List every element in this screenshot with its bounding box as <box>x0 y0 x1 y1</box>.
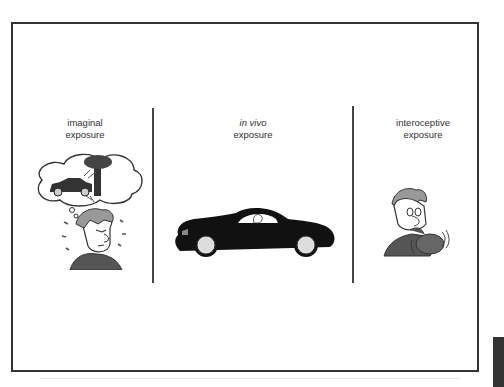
panel-title-in-vivo: in vivo exposure <box>213 117 293 141</box>
panel-title-line1: in vivo <box>213 117 293 129</box>
panel-title-imaginal: imaginal exposure <box>45 117 125 141</box>
panel-divider-left <box>152 108 154 283</box>
panel-title-line2: exposure <box>373 129 473 141</box>
panel-title-line1: imaginal <box>45 117 125 129</box>
panel-title-line2: exposure <box>213 129 293 141</box>
panel-title-line2: exposure <box>45 129 125 141</box>
page-edge-tab <box>493 337 504 387</box>
man-breathing-into-bag-icon <box>380 180 460 260</box>
panel-title-interoceptive: interoceptive exposure <box>373 117 473 141</box>
panel-divider-right <box>352 106 354 283</box>
panel-title-line1: interoceptive <box>373 117 473 129</box>
black-car-with-driver-icon <box>174 205 338 267</box>
worried-man-imagining-crash-icon <box>30 150 150 270</box>
page-rule <box>40 378 460 379</box>
